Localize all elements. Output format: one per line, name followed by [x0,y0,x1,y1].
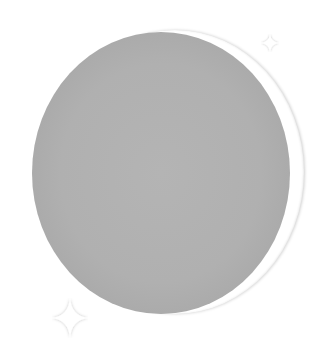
moon-disc [32,32,290,314]
sparkle-icon [261,34,279,52]
sparkle-icon [52,298,88,338]
